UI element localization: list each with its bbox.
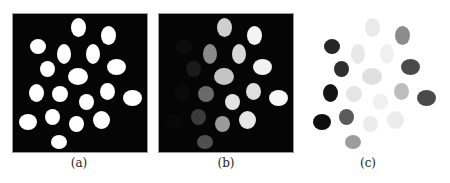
cell-blob bbox=[176, 39, 192, 54]
panel-c-inverted-map bbox=[307, 14, 441, 152]
panel-b-label: (b) bbox=[196, 156, 256, 170]
cell-blob bbox=[232, 44, 246, 64]
cell-blob bbox=[30, 39, 46, 54]
cell-blob bbox=[214, 68, 234, 85]
cell-blob bbox=[373, 94, 388, 110]
cell-blob bbox=[93, 111, 110, 129]
cell-blob bbox=[324, 39, 340, 54]
cell-blob bbox=[51, 135, 67, 149]
cell-blob bbox=[365, 18, 380, 37]
cell-blob bbox=[380, 44, 394, 64]
cell-blob bbox=[225, 94, 240, 110]
cell-blob bbox=[346, 86, 362, 102]
panel-a-label: (a) bbox=[49, 156, 109, 170]
cell-blob bbox=[40, 61, 55, 77]
cell-blob bbox=[198, 86, 214, 102]
panel-c-label: (c) bbox=[338, 156, 398, 170]
cell-blob bbox=[107, 59, 126, 75]
cell-blob bbox=[269, 90, 288, 106]
cell-blob bbox=[123, 90, 142, 106]
cell-blob bbox=[86, 44, 100, 64]
cell-blob bbox=[45, 109, 60, 125]
cell-blob bbox=[68, 68, 88, 85]
cell-blob bbox=[101, 26, 116, 45]
cell-blob bbox=[395, 26, 410, 45]
cell-blob bbox=[79, 94, 94, 110]
cell-blob bbox=[29, 84, 44, 102]
cell-blob bbox=[165, 114, 183, 130]
cell-blob bbox=[345, 135, 361, 149]
cell-blob bbox=[323, 84, 338, 102]
cell-blob bbox=[191, 109, 206, 125]
cell-blob bbox=[52, 86, 68, 102]
cell-blob bbox=[387, 111, 404, 129]
cell-blob bbox=[247, 26, 262, 45]
cell-blob bbox=[246, 83, 261, 100]
cell-blob bbox=[253, 59, 272, 75]
cell-blob bbox=[417, 90, 436, 106]
cell-blob bbox=[313, 114, 331, 130]
cell-blob bbox=[215, 116, 230, 132]
cell-blob bbox=[334, 61, 349, 77]
cell-blob bbox=[351, 44, 365, 64]
cell-blob bbox=[363, 116, 378, 132]
cell-blob bbox=[69, 116, 84, 132]
cell-blob bbox=[217, 18, 232, 37]
cell-blob bbox=[19, 114, 37, 130]
cell-blob bbox=[401, 59, 420, 75]
cell-blob bbox=[339, 109, 354, 125]
cell-blob bbox=[394, 83, 409, 100]
cell-blob bbox=[197, 135, 213, 149]
cell-blob bbox=[186, 61, 201, 77]
cell-blob bbox=[239, 111, 256, 129]
cell-blob bbox=[203, 44, 217, 64]
cell-blob bbox=[175, 84, 190, 102]
cell-blob bbox=[57, 44, 71, 64]
panel-a-binary-mask bbox=[13, 14, 147, 152]
cell-blob bbox=[71, 18, 86, 37]
cell-blob bbox=[100, 83, 115, 100]
panel-b-intensity-map bbox=[159, 14, 293, 152]
cell-blob bbox=[362, 68, 382, 85]
